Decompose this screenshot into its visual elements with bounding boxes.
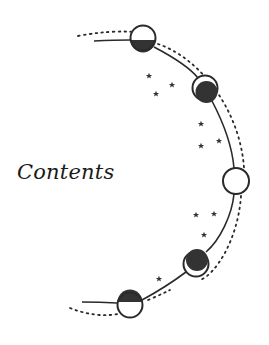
moon-half-top-dark-icon (118, 290, 143, 318)
star-icon (211, 211, 217, 217)
contents-page: Contents (0, 0, 269, 345)
star-icon (146, 73, 152, 79)
star-icon (156, 276, 162, 282)
stars-group (146, 73, 222, 282)
moon-half-bottom-dark-icon (131, 26, 156, 53)
moon-crescent-upper-left-icon (193, 76, 218, 104)
dotted-arc (70, 32, 244, 316)
moon-crescent-bottom-icon (184, 249, 209, 277)
moon-full-icon (223, 168, 249, 194)
star-icon (198, 143, 204, 149)
star-icon (153, 91, 159, 97)
star-icon (201, 232, 207, 238)
star-icon (169, 82, 175, 88)
moon-phase-illustration (0, 0, 269, 345)
star-icon (216, 138, 222, 144)
star-icon (198, 121, 204, 127)
star-icon (193, 212, 199, 218)
